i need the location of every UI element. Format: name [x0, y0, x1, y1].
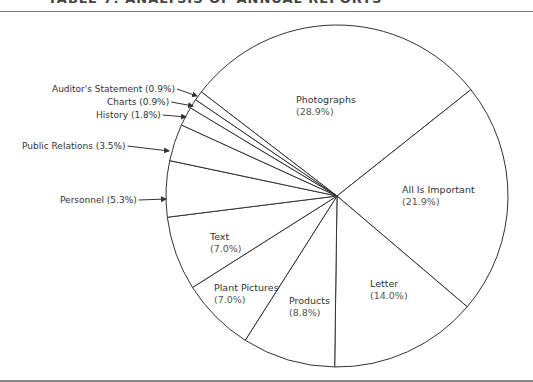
slice-percent: (7.0%) [214, 294, 246, 305]
slice-label: Photographs [296, 94, 356, 105]
external-slice-label: Personnel (5.3%) [60, 195, 137, 205]
slice-percent: (7.0%) [210, 243, 242, 254]
slice-percent: (21.9%) [402, 196, 440, 207]
external-slice-label: History (1.8%) [96, 110, 161, 120]
external-slice-label: Auditor's Statement (0.9%) [52, 84, 175, 94]
slice-percent: (8.8%) [289, 307, 321, 318]
leader-arrow-icon [177, 89, 197, 96]
leader-arrow-icon [139, 199, 166, 200]
slice-label: All Is Important [402, 184, 475, 195]
external-slice-label: Charts (0.9%) [107, 97, 169, 107]
slice-percent: (28.9%) [296, 106, 334, 117]
slice-percent: (14.0%) [370, 290, 408, 301]
leader-arrow-icon [171, 102, 193, 106]
pie-chart: Photographs(28.9%)All Is Important(21.9%… [0, 0, 533, 382]
leader-arrow-icon [163, 115, 186, 117]
leader-arrow-icon [128, 146, 169, 151]
slice-label: Products [289, 295, 330, 306]
external-slice-label: Public Relations (3.5%) [22, 141, 126, 151]
pie-slices [166, 25, 508, 367]
slice-label: Plant Pictures [214, 282, 279, 293]
slice-label: Text [209, 231, 229, 242]
slice-label: Letter [370, 278, 398, 289]
